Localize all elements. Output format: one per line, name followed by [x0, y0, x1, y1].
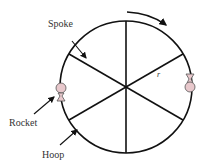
rocket-right-icon: [185, 74, 195, 92]
rocket-left-icon: [56, 83, 66, 101]
spoke-pointer-arrow-icon: [72, 41, 86, 58]
spokes: [69, 21, 183, 153]
rocket-pointer-arrow-icon: [34, 97, 54, 114]
spoke-label: Spoke: [48, 18, 73, 29]
rotation-arrow-icon: [127, 12, 166, 25]
radius-label: r: [157, 70, 160, 79]
hoop-label: Hoop: [42, 149, 64, 160]
hoop-pointer-arrow-icon: [60, 130, 77, 145]
rocket-label: Rocket: [9, 117, 37, 128]
hoop-diagram: [0, 0, 201, 168]
